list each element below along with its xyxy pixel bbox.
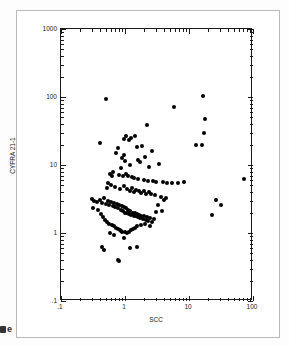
axis-tick <box>250 236 253 237</box>
scatter-plot-area <box>60 28 252 300</box>
data-points-layer <box>61 29 251 299</box>
data-point <box>140 144 144 148</box>
axis-tick <box>175 298 176 301</box>
axis-tick <box>61 49 64 50</box>
axis-tick <box>80 298 81 301</box>
y-tick-label: .1 <box>52 297 57 304</box>
axis-tick <box>220 29 221 32</box>
data-point <box>202 131 206 135</box>
data-point <box>114 151 118 155</box>
data-point <box>154 180 158 184</box>
axis-tick <box>250 240 253 241</box>
axis-tick <box>115 29 116 32</box>
data-point <box>128 163 132 167</box>
axis-tick <box>253 29 254 34</box>
data-point <box>91 206 95 210</box>
data-point <box>135 245 139 249</box>
axis-tick <box>250 248 253 249</box>
data-point <box>203 117 207 121</box>
data-point <box>170 181 174 185</box>
data-point <box>200 143 204 147</box>
data-point <box>112 233 116 237</box>
axis-tick <box>248 29 253 30</box>
axis-tick <box>92 298 93 301</box>
data-point <box>156 203 160 207</box>
y-axis-tick-labels: .11101001000 <box>26 28 57 300</box>
axis-tick <box>243 298 244 301</box>
data-point <box>108 231 112 235</box>
axis-tick <box>248 301 253 302</box>
x-axis-title: SCC <box>60 316 252 323</box>
axis-tick <box>61 29 66 30</box>
y-axis-title: CYFRA 21-1 <box>9 120 16 192</box>
axis-tick <box>186 298 187 301</box>
axis-tick <box>61 100 64 101</box>
data-point <box>157 162 161 166</box>
axis-tick <box>250 201 253 202</box>
data-point <box>98 141 102 145</box>
y-tick-label: 1 <box>53 229 57 236</box>
data-point <box>152 217 156 221</box>
page-background: e CYFRA 21-1 .11101001000 .1110100 SCC <box>0 0 289 346</box>
data-point <box>142 178 146 182</box>
axis-tick <box>61 244 64 245</box>
axis-tick <box>248 165 253 166</box>
axis-tick <box>92 29 93 32</box>
data-point <box>133 134 137 138</box>
data-point <box>150 149 154 153</box>
axis-tick <box>61 269 64 270</box>
data-point <box>219 203 223 207</box>
axis-tick <box>61 168 64 169</box>
data-point <box>182 180 186 184</box>
axis-tick <box>144 29 145 32</box>
axis-tick <box>111 29 112 32</box>
axis-tick <box>170 29 171 32</box>
axis-tick <box>122 298 123 301</box>
axis-tick <box>61 281 64 282</box>
axis-tick <box>111 298 112 301</box>
data-point <box>210 213 214 217</box>
data-point <box>242 177 246 181</box>
data-point <box>153 193 157 197</box>
data-point <box>105 186 109 190</box>
axis-tick <box>61 124 64 125</box>
data-point <box>148 224 152 228</box>
x-tick-label: .1 <box>57 303 62 310</box>
artifact-letter: e <box>7 324 11 334</box>
data-point <box>160 209 164 213</box>
axis-tick <box>61 65 64 66</box>
axis-tick <box>164 298 165 301</box>
axis-tick <box>234 298 235 301</box>
axis-tick <box>61 260 64 261</box>
axis-tick <box>250 124 253 125</box>
axis-tick <box>61 233 66 234</box>
axis-tick <box>253 296 254 301</box>
data-point <box>124 172 128 176</box>
data-point <box>154 210 158 214</box>
data-point <box>143 222 147 226</box>
axis-tick <box>61 253 64 254</box>
axis-tick <box>243 29 244 32</box>
axis-tick <box>250 244 253 245</box>
axis-tick <box>100 29 101 32</box>
axis-tick <box>186 29 187 32</box>
axis-tick <box>61 108 64 109</box>
axis-tick <box>164 29 165 32</box>
axis-tick <box>106 29 107 32</box>
x-tick-label: 100 <box>247 303 258 310</box>
axis-tick <box>61 236 64 237</box>
axis-tick <box>250 32 253 33</box>
axis-tick <box>175 29 176 32</box>
axis-tick <box>61 44 64 45</box>
axis-tick <box>61 112 64 113</box>
axis-tick <box>220 298 221 301</box>
data-point <box>147 165 151 169</box>
data-point <box>122 137 126 141</box>
data-point <box>138 160 142 164</box>
axis-tick <box>183 29 184 32</box>
axis-tick <box>61 172 64 173</box>
axis-tick <box>250 185 253 186</box>
axis-tick <box>248 233 253 234</box>
axis-tick <box>183 298 184 301</box>
axis-tick <box>61 40 64 41</box>
